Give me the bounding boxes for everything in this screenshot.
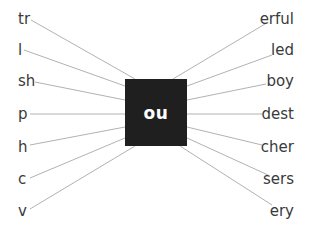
line-erful [173, 24, 265, 79]
right-label-led: led [271, 42, 294, 58]
left-label-p: p [18, 106, 28, 122]
right-label-cher: cher [261, 139, 294, 155]
right-label-dest: dest [262, 106, 294, 122]
right-label-boy: boy [266, 73, 294, 89]
line-h [30, 127, 125, 145]
line-ery [180, 146, 272, 205]
line-cher [187, 127, 262, 145]
line-led [187, 55, 272, 86]
line-l [24, 50, 125, 86]
left-label-h: h [18, 139, 28, 155]
line-tr [31, 20, 135, 79]
left-label-v: v [18, 203, 27, 219]
line-boy [187, 84, 266, 100]
center-text: ou [144, 103, 169, 123]
line-sh [35, 82, 125, 100]
left-label-l: l [18, 42, 22, 58]
left-label-sh: sh [18, 73, 35, 89]
left-label-tr: tr [18, 11, 30, 27]
left-label-c: c [18, 171, 26, 187]
right-label-ery: ery [270, 203, 294, 219]
line-c [30, 138, 125, 178]
right-label-sers: sers [263, 171, 294, 187]
center-box: ou [125, 79, 187, 146]
right-label-erful: erful [260, 11, 294, 27]
